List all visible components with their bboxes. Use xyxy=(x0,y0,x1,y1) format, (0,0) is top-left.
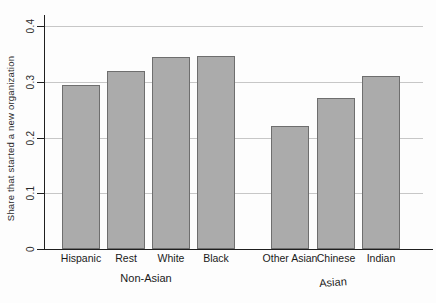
bar-chinese xyxy=(317,98,355,249)
bar-white xyxy=(152,57,190,249)
bar-hispanic xyxy=(62,85,100,249)
y-tick-label-0.3: 0.3 xyxy=(23,62,37,102)
group-label-non-asian: Non-Asian xyxy=(120,272,171,284)
y-tick-mark-0.4 xyxy=(37,26,44,27)
y-tick-mark-0.1 xyxy=(37,193,44,194)
bar-black xyxy=(197,56,235,249)
category-label-black: Black xyxy=(188,252,244,265)
gridline-0.4 xyxy=(45,26,423,27)
y-tick-mark-0.3 xyxy=(37,82,44,83)
y-tick-mark-0.2 xyxy=(37,138,44,139)
bar-other-asian xyxy=(271,126,309,249)
group-label-asian: Asian xyxy=(319,275,347,289)
x-axis-line xyxy=(44,249,433,250)
y-axis-label: Share that started a new organization xyxy=(5,29,16,249)
category-label-indian: Indian xyxy=(353,252,409,265)
y-tick-label-0.1: 0.1 xyxy=(23,173,37,213)
y-axis-line xyxy=(44,15,45,250)
y-tick-mark-0 xyxy=(37,249,44,250)
bar-chart-figure: Share that started a new organization 00… xyxy=(0,0,436,303)
y-tick-label-0: 0 xyxy=(23,229,37,269)
bar-rest xyxy=(107,71,145,249)
y-tick-label-0.2: 0.2 xyxy=(23,118,37,158)
bar-indian xyxy=(362,76,400,249)
y-tick-label-0.4: 0.4 xyxy=(23,6,37,46)
